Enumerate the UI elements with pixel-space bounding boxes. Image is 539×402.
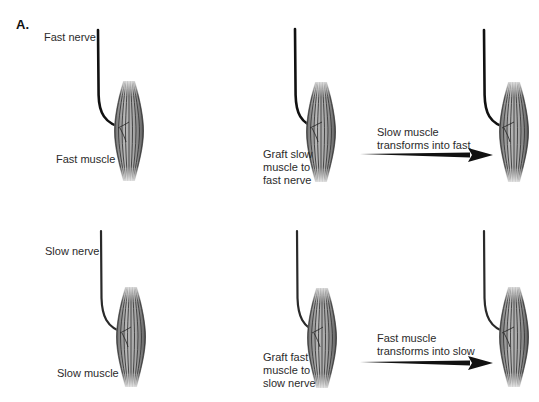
- fast-muscle-label: Fast muscle: [56, 153, 115, 166]
- slow-muscle-control: [115, 287, 147, 387]
- graft-fast-to-slow-label: Graft fast muscle to slow nerve: [263, 351, 316, 390]
- fast-to-slow-transformation-label: Fast muscle transforms into slow: [377, 332, 475, 358]
- transformation-arrow-slow: [360, 356, 493, 370]
- transformed-slow-muscle: [498, 287, 530, 387]
- transformed-fast-muscle: [498, 82, 530, 182]
- graft-slow-to-fast-label: Graft slow muscle to fast nerve: [263, 148, 313, 187]
- slow-nerve-label: Slow nerve: [45, 245, 99, 258]
- nerve-muscle-graft-diagram: A.: [0, 0, 539, 402]
- slow-muscle-label: Slow muscle: [57, 367, 119, 380]
- fast-muscle-control: [113, 81, 145, 181]
- fast-nerve-label: Fast nerve: [44, 31, 96, 44]
- slow-to-fast-transformation-label: Slow muscle transforms into fast: [377, 126, 471, 152]
